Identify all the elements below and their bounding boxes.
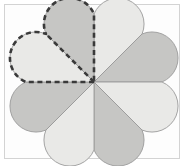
figure-root xyxy=(0,0,186,166)
flower-diagram xyxy=(0,0,186,166)
